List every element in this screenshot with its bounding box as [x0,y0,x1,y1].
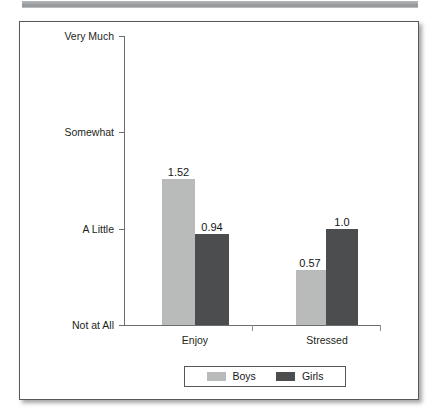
y-axis-label-a-little: A Little [82,224,114,235]
y-tick-not-at-all [119,325,125,326]
legend-swatch-boys-icon [207,372,226,381]
legend-item-boys: Boys [207,371,256,382]
y-axis-label-somewhat: Somewhat [64,127,114,138]
bar-enjoy-girls [195,234,229,325]
value-label-stressed-boys: 0.57 [293,257,327,269]
x-tick-axis-end [380,325,381,331]
screenshot-root: Very Much Somewhat A Little Not at All 1… [0,0,442,420]
bar-enjoy-boys [162,179,195,325]
x-tick-group-separator [252,325,253,331]
figure-card: Very Much Somewhat A Little Not at All 1… [19,21,419,400]
x-axis-label-enjoy: Enjoy [155,334,235,346]
value-label-enjoy-girls: 0.94 [195,221,229,233]
bar-stressed-girls [326,229,358,325]
x-axis-label-stressed: Stressed [287,334,367,346]
legend-label-girls: Girls [302,371,324,382]
legend-item-girls: Girls [276,371,324,382]
page-top-rule [22,1,418,8]
y-tick-very-much [119,36,125,37]
y-tick-somewhat [119,132,125,133]
legend-label-boys: Boys [233,371,256,382]
legend-swatch-girls-icon [276,372,295,381]
chart-legend: Boys Girls [184,366,346,387]
y-axis-line [124,36,125,326]
value-label-stressed-girls: 1.0 [326,216,358,228]
chart-plot-area: Very Much Somewhat A Little Not at All 1… [20,22,420,401]
value-label-enjoy-boys: 1.52 [162,166,195,178]
y-axis-label-not-at-all: Not at All [72,320,114,331]
y-tick-a-little [119,229,125,230]
bar-stressed-boys [296,270,326,325]
y-axis-label-very-much: Very Much [64,31,114,42]
